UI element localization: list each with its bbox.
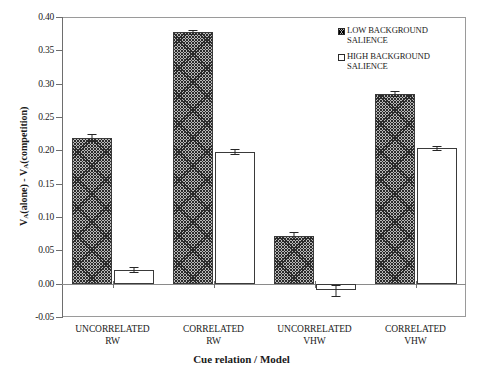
error-bar-cap-bottom bbox=[188, 34, 197, 35]
y-axis-tick bbox=[56, 317, 63, 318]
legend-label-line1: HIGH BACKGROUND bbox=[347, 51, 430, 61]
x-axis-category-label: UNCORRELATEDRW bbox=[62, 324, 163, 347]
y-axis-tick bbox=[56, 17, 63, 18]
y-axis-tick-label: 0.20 bbox=[38, 145, 54, 155]
error-bar-cap-bottom bbox=[87, 141, 96, 142]
error-bar-cap-top bbox=[188, 30, 197, 31]
category-label-line2: RW bbox=[163, 336, 264, 348]
y-axis-title-sub2: A bbox=[22, 164, 30, 169]
y-axis-title-v2: V bbox=[18, 169, 29, 176]
y-axis-title-v1: V bbox=[18, 219, 29, 226]
error-bar bbox=[215, 149, 255, 154]
legend-label-line2: SALIENCE bbox=[347, 35, 388, 45]
y-axis-tick-label: 0.05 bbox=[38, 245, 54, 255]
error-bar-cap-bottom bbox=[432, 150, 441, 151]
y-axis-tick-label: 0.00 bbox=[38, 279, 54, 289]
bar-high-salience bbox=[417, 148, 457, 283]
x-axis-category-label: UNCORRELATEDVHW bbox=[264, 324, 365, 347]
error-bar bbox=[72, 134, 112, 141]
y-axis-tick-label: 0.30 bbox=[38, 79, 54, 89]
error-bar bbox=[316, 285, 356, 296]
error-bar bbox=[114, 267, 154, 272]
error-bar bbox=[417, 146, 457, 150]
y-axis-tick bbox=[56, 117, 63, 118]
category-label-line2: VHW bbox=[264, 336, 365, 348]
x-axis-category-label: CORRELATEDRW bbox=[163, 324, 264, 347]
error-bar bbox=[274, 232, 314, 239]
figure-container: 0.400.350.300.250.200.150.100.050.00-0.0… bbox=[0, 0, 483, 388]
error-bar bbox=[375, 91, 415, 96]
y-axis-tick bbox=[56, 84, 63, 85]
bar-low-salience bbox=[173, 32, 213, 284]
error-bar-cap-top bbox=[129, 267, 138, 268]
error-bar-cap-top bbox=[390, 91, 399, 92]
y-axis-tick-label: 0.35 bbox=[38, 45, 54, 55]
error-bar-cap-bottom bbox=[230, 154, 239, 155]
error-bar-cap-bottom bbox=[331, 296, 340, 297]
legend: LOW BACKGROUND SALIENCE HIGH BACKGROUND … bbox=[332, 20, 468, 84]
y-axis-line bbox=[62, 17, 63, 317]
category-label-line1: CORRELATED bbox=[163, 324, 264, 336]
x-axis-category-label: CORRELATEDVHW bbox=[365, 324, 466, 347]
error-bar bbox=[173, 30, 213, 34]
y-axis-title: VA(alone) - VA(competition) bbox=[18, 56, 31, 276]
error-bar-cap-top bbox=[230, 149, 239, 150]
y-axis-tick bbox=[56, 184, 63, 185]
category-label-line2: VHW bbox=[365, 336, 466, 348]
hatched-swatch-icon bbox=[338, 28, 345, 35]
legend-label-line2: SALIENCE bbox=[347, 61, 388, 71]
y-axis-title-sub1: A bbox=[22, 214, 30, 219]
y-axis-title-mid: (alone) - bbox=[18, 176, 29, 214]
error-bar-cap-top bbox=[289, 232, 298, 233]
x-axis-title: Cue relation / Model bbox=[0, 353, 483, 365]
legend-item-low-background-salience: LOW BACKGROUND SALIENCE bbox=[338, 26, 464, 45]
y-axis-tick-label: 0.40 bbox=[38, 12, 54, 22]
zero-baseline bbox=[62, 284, 466, 285]
legend-item-label: HIGH BACKGROUND SALIENCE bbox=[347, 52, 430, 71]
error-bar-cap-bottom bbox=[289, 239, 298, 240]
error-bar-cap-bottom bbox=[390, 96, 399, 97]
legend-item-label: LOW BACKGROUND SALIENCE bbox=[347, 26, 428, 45]
category-label-line2: RW bbox=[62, 336, 163, 348]
error-bar-cap-bottom bbox=[129, 272, 138, 273]
category-label-line1: UNCORRELATED bbox=[264, 324, 365, 336]
y-axis-tick bbox=[56, 217, 63, 218]
y-axis-tick bbox=[56, 250, 63, 251]
y-axis-title-tail: (competition) bbox=[18, 107, 29, 164]
legend-item-high-background-salience: HIGH BACKGROUND SALIENCE bbox=[338, 52, 464, 71]
category-label-line1: CORRELATED bbox=[365, 324, 466, 336]
y-axis-tick-label: 0.10 bbox=[38, 212, 54, 222]
bar-low-salience bbox=[375, 94, 415, 284]
legend-label-line1: LOW BACKGROUND bbox=[347, 25, 428, 35]
y-axis-tick bbox=[56, 150, 63, 151]
y-axis-tick-label: -0.05 bbox=[35, 312, 54, 322]
error-bar-stem bbox=[335, 285, 336, 296]
error-bar-cap-top bbox=[331, 285, 340, 286]
bar-low-salience bbox=[72, 138, 112, 284]
error-bar-cap-top bbox=[432, 146, 441, 147]
white-swatch-icon bbox=[338, 54, 345, 61]
bar-low-salience bbox=[274, 236, 314, 284]
y-axis-tick bbox=[56, 50, 63, 51]
y-axis-tick-label: 0.25 bbox=[38, 112, 54, 122]
category-label-line1: UNCORRELATED bbox=[62, 324, 163, 336]
y-axis-tick-label: 0.15 bbox=[38, 179, 54, 189]
bar-high-salience bbox=[215, 152, 255, 284]
error-bar-cap-top bbox=[87, 134, 96, 135]
